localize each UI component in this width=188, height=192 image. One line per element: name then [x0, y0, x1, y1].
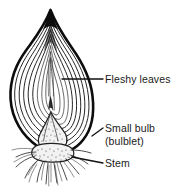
bulb-diagram-svg: Fleshy leaves Small bulb (bulblet) Stem: [0, 0, 188, 192]
label-bulblet: (bulblet): [105, 135, 144, 147]
label-small-bulb: Small bulb: [105, 122, 155, 134]
label-stem: Stem: [105, 157, 130, 169]
basal-plate-shape: [32, 143, 74, 162]
label-fleshy-leaves: Fleshy leaves: [105, 73, 171, 85]
bulb-figure: Fleshy leaves Small bulb (bulblet) Stem: [0, 0, 188, 192]
